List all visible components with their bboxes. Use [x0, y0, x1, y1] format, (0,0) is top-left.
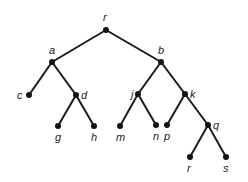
- edge-q-r2: [190, 125, 208, 157]
- node-s: [223, 154, 229, 160]
- label-h: h: [91, 131, 97, 143]
- node-r: [103, 27, 109, 33]
- edge-r-b: [106, 30, 161, 62]
- label-d: d: [81, 89, 88, 101]
- node-r2: [187, 154, 193, 160]
- label-q: q: [213, 119, 220, 131]
- label-j: j: [129, 88, 134, 100]
- tree-labels: rabcdjkghmnpqrs: [17, 11, 229, 174]
- label-p: p: [163, 130, 170, 142]
- node-j: [135, 91, 141, 97]
- node-k: [182, 91, 188, 97]
- node-d: [73, 92, 79, 98]
- label-m: m: [116, 131, 125, 143]
- edge-d-g: [58, 95, 76, 126]
- node-c: [26, 92, 32, 98]
- edge-j-n: [138, 94, 156, 125]
- label-c: c: [17, 89, 23, 101]
- edge-a-d: [52, 62, 76, 95]
- tree-graphic: rabcdjkghmnpqrs: [0, 0, 248, 182]
- label-r2: r: [187, 162, 192, 174]
- edge-a-c: [29, 62, 52, 95]
- node-b: [158, 59, 164, 65]
- node-q: [205, 122, 211, 128]
- edge-j-m: [120, 94, 138, 126]
- label-k: k: [190, 88, 196, 100]
- label-n: n: [153, 130, 159, 142]
- node-p: [164, 122, 170, 128]
- edge-k-q: [185, 94, 208, 125]
- label-g: g: [55, 131, 62, 143]
- edge-r-a: [52, 30, 106, 62]
- node-g: [55, 123, 61, 129]
- label-s: s: [223, 162, 229, 174]
- node-m: [117, 123, 123, 129]
- label-r: r: [103, 11, 108, 23]
- edge-b-k: [161, 62, 185, 94]
- label-b: b: [158, 44, 164, 56]
- node-n: [153, 122, 159, 128]
- edge-k-p: [167, 94, 185, 125]
- label-a: a: [49, 44, 55, 56]
- node-h: [91, 123, 97, 129]
- edge-b-j: [138, 62, 161, 94]
- node-a: [49, 59, 55, 65]
- tree-diagram: rabcdjkghmnpqrs: [0, 0, 248, 182]
